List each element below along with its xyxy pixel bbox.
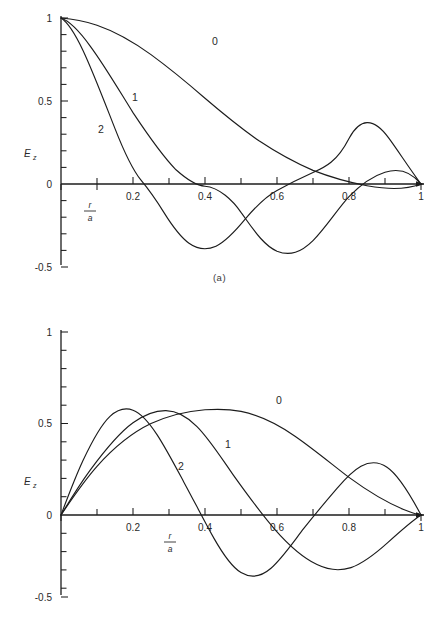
- y-tick-label-a-1: 1: [46, 13, 52, 24]
- y-tick-label-a-05: 0.5: [38, 96, 52, 107]
- y-tick-label-a-0: 0: [46, 179, 52, 190]
- y-tick-label-a-neg05: -0.5: [35, 262, 53, 273]
- y-axis-label-a: E: [24, 148, 31, 159]
- y-axis-label-b: E: [24, 476, 31, 487]
- panel-b: 1 0.5 0 -0.5 0.2 0.4 0.6 0.8: [0, 310, 439, 635]
- x-tick-label-a-1: 1: [418, 191, 424, 202]
- y-ticks-b: [61, 332, 68, 597]
- x-tick-label-a-04: 0.4: [198, 191, 212, 202]
- panel-b-plot: 1 0.5 0 -0.5 0.2 0.4 0.6 0.8: [0, 310, 439, 635]
- curve-a-1: [61, 18, 421, 253]
- y-tick-label-b-05: 0.5: [38, 418, 52, 429]
- panel-a-caption: (a): [0, 272, 439, 283]
- curve-label-a-1: 1: [132, 91, 138, 103]
- x-tick-label-b-02: 0.2: [126, 522, 140, 533]
- x-tick-label-a-02: 0.2: [126, 191, 140, 202]
- x-tick-label-b-08: 0.8: [342, 522, 356, 533]
- curve-label-b-1: 1: [225, 438, 231, 450]
- x-axis-label-denominator-a: a: [88, 213, 93, 223]
- y-ticks-a: [61, 18, 68, 267]
- curve-b-2: [61, 409, 421, 576]
- y-axis-label-sub-b: z: [32, 482, 37, 489]
- y-tick-label-b-neg05: -0.5: [35, 592, 53, 603]
- curve-a-0: [61, 18, 421, 189]
- y-tick-label-b-1: 1: [46, 327, 52, 338]
- curve-label-a-2: 2: [98, 123, 104, 135]
- x-tick-label-b-1: 1: [418, 522, 424, 533]
- x-axis-label-numerator-b: r: [169, 531, 173, 541]
- panel-a-plot: 1 0.5 0 -0.5 0.2 0.4 0.6: [0, 0, 439, 300]
- x-axis-label-denominator-b: a: [168, 544, 173, 554]
- y-tick-label-b-0: 0: [46, 510, 52, 521]
- curve-label-b-2: 2: [178, 460, 184, 472]
- curve-b-0: [61, 409, 421, 515]
- figure-bessel-field-profiles: 1 0.5 0 -0.5 0.2 0.4 0.6: [0, 0, 439, 635]
- x-axis-label-numerator-a: r: [89, 200, 93, 210]
- panel-a: 1 0.5 0 -0.5 0.2 0.4 0.6: [0, 0, 439, 300]
- curve-label-a-0: 0: [212, 35, 218, 47]
- curve-a-2: [61, 18, 421, 249]
- y-axis-label-sub-a: z: [32, 154, 37, 161]
- curve-label-b-0: 0: [276, 394, 282, 406]
